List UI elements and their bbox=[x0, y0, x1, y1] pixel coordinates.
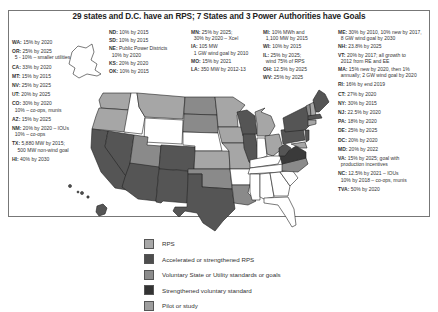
note-co: CO: 30% by 2020 10% – co-ops, munis bbox=[12, 100, 70, 112]
legend-label: RPS bbox=[162, 240, 175, 247]
state-nm bbox=[156, 169, 188, 203]
note-mn: MN: 25% by 2025; 30% by 2020 – Xcel bbox=[191, 29, 248, 41]
note-la: LA: 350 MW by 2012-13 bbox=[191, 66, 248, 72]
note-dc: DC: 20% by 2020 bbox=[338, 137, 422, 143]
note-nc: NC: 12.5% by 2021 – IOUs 10% by 2018 – c… bbox=[338, 170, 422, 182]
legend-item-voluntary: Voluntary State or Utility standards or … bbox=[144, 267, 281, 283]
legend-swatch bbox=[144, 254, 154, 264]
legend-label: Strengthened voluntary standard bbox=[162, 287, 252, 294]
notes-center-right: MI: 10% MWh and 1,100 MW by 2015 WI: 10%… bbox=[263, 29, 308, 80]
note-sd: SD: 10% by 2015 bbox=[109, 37, 167, 43]
note-az: AZ: 15% by 2025 bbox=[12, 116, 70, 122]
state-fl bbox=[264, 197, 296, 227]
note-tva: TVA: 50% by 2020 bbox=[338, 186, 422, 192]
note-me: ME: 30% by 2010, 10% new by 2017, 8 GW w… bbox=[338, 29, 422, 41]
state-or bbox=[92, 108, 129, 132]
note-ca: CA: 33% by 2020 bbox=[12, 64, 70, 70]
state-md bbox=[291, 142, 307, 148]
note-nh: NH: 23.8% by 2025 bbox=[338, 43, 422, 49]
legend-swatch bbox=[144, 301, 154, 311]
note-mt: MT: 15% by 2015 bbox=[12, 73, 70, 79]
state-hi bbox=[69, 185, 108, 217]
note-nv: NV: 25% by 2025 bbox=[12, 82, 70, 88]
state-nj bbox=[305, 130, 309, 142]
note-ok: OK: 10% by 2015 bbox=[109, 68, 167, 74]
note-ny: NY: 30% by 2015 bbox=[338, 100, 422, 106]
note-nd: ND: 10% by 2015 bbox=[109, 29, 167, 35]
state-mi bbox=[255, 108, 275, 136]
note-pa: PA: 18% by 2020 bbox=[338, 118, 422, 124]
legend-label: Pilot or study bbox=[162, 302, 198, 309]
note-mo: MO: 15% by 2021 bbox=[191, 58, 248, 64]
notes-left: WA: 15% by 2020 OR: 25% by 2025 5 - 10% … bbox=[12, 39, 70, 162]
note-de: DE: 25% by 2025 bbox=[338, 127, 422, 133]
note-ct: CT: 27% by 2020 bbox=[338, 91, 422, 97]
note-or: OR: 25% by 2025 5 - 10% – smaller utilit… bbox=[12, 48, 70, 60]
note-nm: NM: 20% by 2020 – IOUs 10% – co-ops bbox=[12, 125, 70, 137]
state-wa bbox=[99, 93, 131, 110]
map-legend: RPS Accelerated or strengthened RPS Volu… bbox=[144, 236, 281, 312]
note-ks: KS: 20% by 2020 bbox=[109, 60, 167, 66]
note-va: VA: 15% by 2025; goal with production in… bbox=[338, 155, 422, 167]
state-me bbox=[313, 90, 329, 112]
legend-item-strengthened-voluntary: Strengthened voluntary standard bbox=[144, 283, 281, 299]
note-nj: NJ: 22.5% by 2020 bbox=[338, 109, 422, 115]
note-wi: WI: 10% by 2015 bbox=[263, 43, 308, 49]
legend-label: Accelerated or strengthened RPS bbox=[162, 256, 254, 263]
state-ks bbox=[194, 151, 230, 169]
legend-item-rps: RPS bbox=[144, 236, 281, 252]
legend-swatch bbox=[144, 239, 154, 249]
state-sd bbox=[183, 114, 218, 133]
state-ct bbox=[308, 120, 316, 126]
notes-center-left: ND: 10% by 2015 SD: 10% by 2015 NE: Publ… bbox=[109, 29, 167, 74]
state-mt bbox=[137, 93, 185, 119]
note-tx: TX: 5,880 MW by 2015; 500 MW non-wind go… bbox=[12, 140, 70, 152]
legend-item-pilot: Pilot or study bbox=[144, 298, 281, 312]
legend-label: Voluntary State or Utility standards or … bbox=[162, 271, 281, 278]
legend-swatch bbox=[144, 270, 154, 280]
note-ia: IA: 105 MW 1 GW wind goal by 2010 bbox=[191, 43, 248, 55]
notes-right: ME: 30% by 2010, 10% new by 2017, 8 GW w… bbox=[338, 29, 422, 192]
legend-item-accelerated-rps: Accelerated or strengthened RPS bbox=[144, 252, 281, 268]
note-ne: NE: Public Power Districts 10% by 2020 bbox=[109, 45, 167, 57]
note-oh: OH: 12.5% by 2025 bbox=[263, 66, 308, 72]
note-ri: RI: 16% by end 2019 bbox=[338, 81, 422, 87]
legend-swatch bbox=[144, 285, 154, 295]
note-mi: MI: 10% MWh and 1,100 MW by 2015 bbox=[263, 29, 308, 41]
notes-center: MN: 25% by 2025; 30% by 2020 – Xcel IA: … bbox=[191, 29, 248, 72]
note-il: IL: 25% by 2025; wind 75% of RPS bbox=[263, 52, 308, 64]
note-ut: UT: 20% by 2025 bbox=[12, 91, 70, 97]
note-vt: VT: 20% by 2017; all growth to 2012 from… bbox=[338, 52, 422, 64]
state-wy bbox=[144, 118, 183, 144]
state-nd bbox=[184, 97, 217, 115]
note-wv: WV: 25% by 2025 bbox=[263, 74, 308, 80]
state-ak bbox=[69, 44, 101, 78]
state-co bbox=[159, 145, 195, 171]
note-ma: MA: 15% new by 2020, then 1% annually; 2… bbox=[338, 66, 422, 78]
state-ms bbox=[250, 174, 260, 200]
note-wa: WA: 15% by 2020 bbox=[12, 39, 70, 45]
note-md: MD: 20% by 2022 bbox=[338, 146, 422, 152]
note-hi: HI: 40% by 2030 bbox=[12, 156, 70, 162]
